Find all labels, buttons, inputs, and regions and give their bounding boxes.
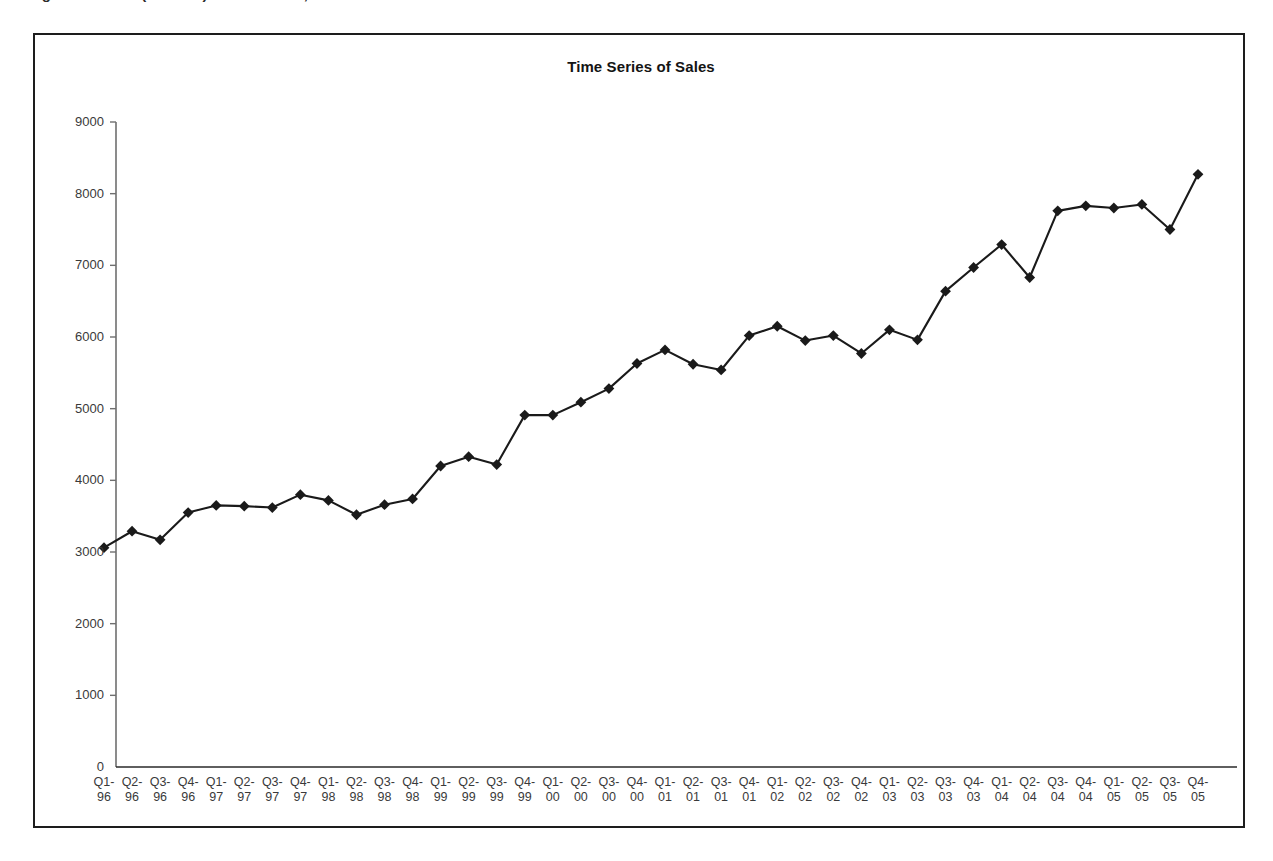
y-axis-tick-label: 8000 (52, 187, 104, 200)
data-point-marker (1108, 203, 1119, 214)
data-point-marker (463, 451, 474, 462)
data-point-marker (575, 397, 586, 408)
figure-caption-strip: Figure 1. Sales (in 000’s) of Product X,… (0, 0, 1273, 14)
y-axis-tick-label: 5000 (52, 402, 104, 415)
y-axis-tick-label: 4000 (52, 473, 104, 486)
sales-data-markers (99, 169, 1204, 553)
data-point-marker (772, 321, 783, 332)
data-point-marker (267, 502, 278, 513)
y-axis-tick-label: 1000 (52, 688, 104, 701)
y-axis-ticks (110, 122, 116, 695)
axis-group (116, 122, 1237, 767)
x-label-quarter: Q4- (1181, 775, 1215, 790)
data-point-marker (323, 495, 334, 506)
data-point-marker (491, 459, 502, 470)
figure-caption-text: Figure 1. Sales (in 000’s) of Product X,… (28, 0, 408, 2)
sales-series-line (104, 174, 1198, 547)
data-point-marker (295, 489, 306, 500)
data-point-marker (1052, 205, 1063, 216)
data-point-marker (912, 334, 923, 345)
data-point-marker (688, 359, 699, 370)
data-point-marker (379, 499, 390, 510)
y-axis-tick-label: 7000 (52, 258, 104, 271)
data-point-marker (239, 501, 250, 512)
data-point-marker (1080, 200, 1091, 211)
y-axis-tick-label: 2000 (52, 617, 104, 630)
data-point-marker (127, 526, 138, 537)
data-point-marker (800, 335, 811, 346)
plot-area: 0100020003000400050006000700080009000 Q1… (35, 35, 1247, 830)
data-point-marker (828, 330, 839, 341)
y-axis-tick-label: 3000 (52, 545, 104, 558)
data-point-marker (660, 345, 671, 356)
y-axis-tick-label: 9000 (52, 115, 104, 128)
data-point-marker (351, 509, 362, 520)
y-axis-tick-label: 6000 (52, 330, 104, 343)
x-label-year: 05 (1181, 790, 1215, 805)
line-chart-svg (35, 35, 1247, 830)
figure-frame: Time Series of Sales 0100020003000400050… (33, 33, 1245, 828)
data-point-marker (1193, 169, 1204, 180)
x-axis-tick-label: Q4-05 (1181, 775, 1215, 805)
data-point-marker (519, 410, 530, 421)
data-point-marker (547, 410, 558, 421)
y-axis-tick-label: 0 (52, 760, 104, 773)
data-point-marker (211, 500, 222, 511)
